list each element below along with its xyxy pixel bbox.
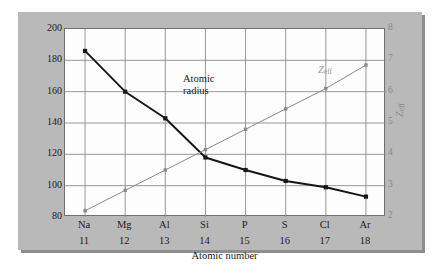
y2-axis-tick-label: 2	[388, 211, 404, 221]
data-point-marker	[203, 155, 207, 159]
x-axis-number-label: 17	[305, 234, 345, 248]
y2-axis-title: Zeff	[394, 80, 406, 140]
data-point-marker	[123, 90, 127, 94]
x-axis-symbol-label: Mg	[104, 218, 144, 232]
data-point-marker	[204, 148, 207, 151]
data-point-marker	[364, 195, 368, 199]
chart-panel: Atomic radius (pm) 20018016014012010080 …	[18, 12, 422, 250]
y2-axis-tick-label: 8	[388, 23, 404, 33]
data-point-marker	[364, 63, 367, 66]
x-axis-numbers: 1112131415161718	[64, 234, 385, 250]
data-point-marker	[324, 87, 327, 90]
x-axis-symbol-label: Cl	[305, 218, 345, 232]
x-axis-number-label: 15	[225, 234, 265, 248]
x-axis-symbol-label: Ar	[345, 218, 385, 232]
x-axis-title: Atomic number	[64, 250, 385, 261]
data-point-marker	[243, 168, 247, 172]
y2-axis-tick-label: 4	[388, 148, 404, 158]
data-point-marker	[163, 116, 167, 120]
data-point-marker	[324, 185, 328, 189]
x-axis-symbol-label: P	[225, 218, 265, 232]
annotation-zeff-subscript: eff	[324, 67, 332, 76]
data-point-marker	[83, 49, 87, 53]
x-axis-number-label: 11	[64, 234, 104, 248]
x-axis-number-label: 14	[184, 234, 224, 248]
x-axis-number-label: 16	[265, 234, 305, 248]
x-axis-symbols: NaMgAlSiPSClAr	[64, 218, 385, 234]
y-axis-tick-label: 80	[32, 211, 62, 221]
data-point-marker	[164, 168, 167, 171]
x-axis-number-label: 18	[345, 234, 385, 248]
annotation-atomic-radius: Atomic radius	[183, 73, 253, 97]
y2-axis-tick-label: 3	[388, 180, 404, 190]
chart-page: Atomic radius (pm) 20018016014012010080 …	[0, 0, 439, 275]
y-axis-tick-label: 200	[32, 23, 62, 33]
x-axis-number-label: 12	[104, 234, 144, 248]
annotation-zeff: Zeff	[318, 64, 332, 76]
y2-axis-tick-label: 7	[388, 54, 404, 64]
data-point-marker	[284, 107, 287, 110]
data-point-marker	[284, 179, 288, 183]
y-axis-tick-label: 180	[32, 54, 62, 64]
data-point-marker	[244, 128, 247, 131]
plot-area: Atomic radius	[64, 28, 385, 216]
x-axis-symbol-label: Na	[64, 218, 104, 232]
y-axis-tick-label: 120	[32, 148, 62, 158]
data-point-marker	[123, 189, 126, 192]
x-axis-symbol-label: Al	[144, 218, 184, 232]
y2-axis-title-base: Z	[394, 111, 405, 117]
annotation-atomic-radius-line1: Atomic	[183, 73, 215, 84]
data-point-marker	[83, 209, 86, 212]
plot-svg	[65, 29, 386, 217]
y2-axis-title-subscript: eff	[397, 103, 406, 111]
annotation-atomic-radius-line2: radius	[183, 85, 209, 96]
x-axis-number-label: 13	[144, 234, 184, 248]
x-axis-symbol-label: Si	[184, 218, 224, 232]
x-axis-symbol-label: S	[265, 218, 305, 232]
y-axis-tick-label: 100	[32, 180, 62, 190]
y-axis-tick-label: 140	[32, 117, 62, 127]
y-axis-tick-label: 160	[32, 86, 62, 96]
y-axis-ticks: 20018016014012010080	[26, 28, 62, 216]
